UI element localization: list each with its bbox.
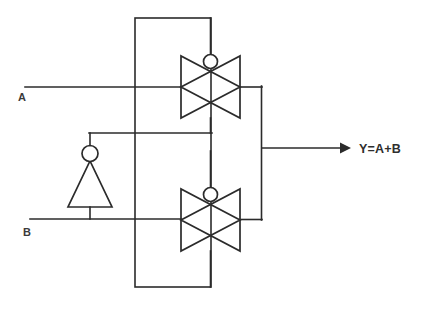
input-b-label: B <box>23 226 31 238</box>
output-label: Y=A+B <box>359 142 401 156</box>
output-arrow <box>262 143 351 154</box>
inversion-bubble-icon <box>204 188 218 202</box>
arrow-right-icon <box>340 143 351 154</box>
input-a-label: A <box>18 91 26 103</box>
inversion-bubble-icon <box>82 146 98 162</box>
circuit-diagram: A B Y=A+B <box>0 0 425 311</box>
inverter-gate <box>68 133 112 219</box>
output-bus <box>240 86 262 220</box>
control-bus-rectangle <box>135 18 211 287</box>
circuit-svg: A B Y=A+B <box>0 0 425 311</box>
inversion-bubble-icon <box>204 55 218 69</box>
